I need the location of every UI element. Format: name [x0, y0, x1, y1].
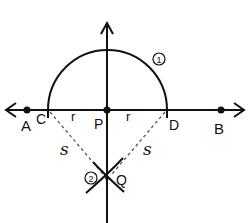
- label-q: Q: [116, 172, 127, 188]
- svg-text:1: 1: [157, 55, 162, 65]
- point-p: [104, 107, 111, 114]
- dashed-line-dq: [112, 112, 165, 174]
- label-d: D: [169, 117, 179, 133]
- label-r-left: r: [71, 109, 76, 124]
- label-s-left: s: [60, 139, 69, 159]
- point-b: [218, 107, 225, 114]
- perpendicular-construction-diagram: A C P D B Q r r s s 1 2: [0, 0, 250, 223]
- label-p: P: [94, 116, 103, 132]
- point-q: [105, 176, 109, 180]
- label-b: B: [214, 120, 224, 137]
- step-marker-2: 2: [85, 172, 97, 184]
- label-c: C: [36, 111, 46, 127]
- label-s-right: s: [143, 139, 152, 159]
- svg-text:2: 2: [89, 174, 94, 184]
- diagram-canvas: A C P D B Q r r s s 1 2: [0, 0, 250, 223]
- point-a: [24, 107, 31, 114]
- label-r-right: r: [126, 109, 131, 124]
- step-marker-1: 1: [153, 53, 165, 65]
- label-a: A: [21, 117, 31, 134]
